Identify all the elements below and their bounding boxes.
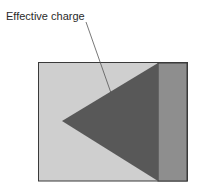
right-strip bbox=[158, 63, 187, 181]
charge-diagram bbox=[0, 0, 197, 192]
